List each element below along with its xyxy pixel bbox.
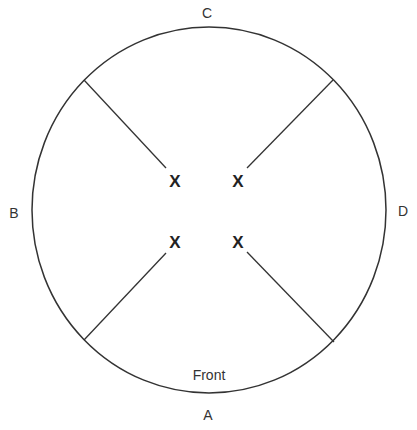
mark-x-top-left: X bbox=[169, 172, 180, 192]
mark-x-top-right: X bbox=[232, 172, 243, 192]
label-c: C bbox=[202, 5, 212, 21]
mark-x-bottom-right: X bbox=[232, 233, 243, 253]
spoke-bottom-right bbox=[247, 252, 334, 342]
label-d: D bbox=[398, 203, 408, 219]
diagram-canvas bbox=[0, 0, 417, 430]
spoke-top-left bbox=[84, 80, 166, 168]
label-a: A bbox=[203, 407, 212, 423]
spoke-top-right bbox=[247, 80, 333, 168]
spoke-bottom-left bbox=[84, 253, 166, 340]
mark-x-bottom-left: X bbox=[169, 233, 180, 253]
label-front: Front bbox=[193, 367, 226, 383]
label-b: B bbox=[9, 205, 18, 221]
